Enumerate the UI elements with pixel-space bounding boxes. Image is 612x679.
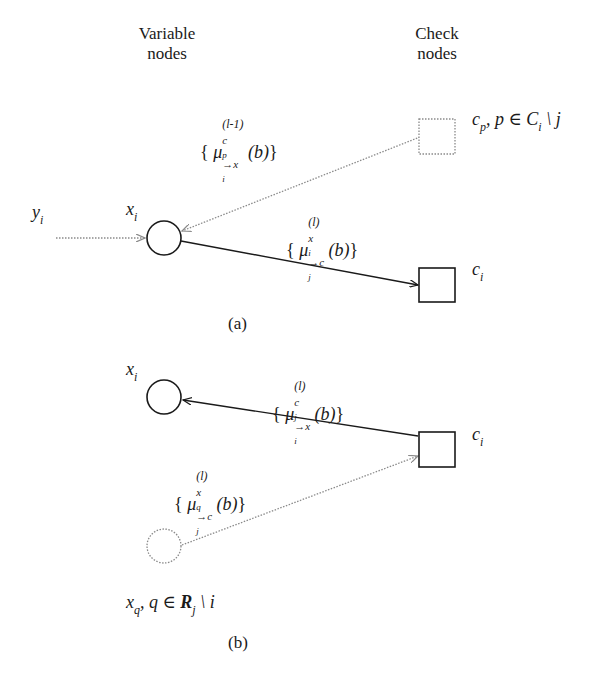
msg-argument: (b) — [329, 240, 350, 260]
brace-open: { — [286, 240, 295, 260]
msg-sub-to-index: j — [308, 271, 324, 283]
message-in-a: { μ(l-1)cp→xi (b)} — [200, 124, 278, 184]
y-symbol: y — [32, 202, 40, 222]
check-header-line1: Check — [402, 24, 472, 44]
xq-subscript: q — [134, 603, 140, 617]
message-out-b: { μ(l)cj→xi (b)} — [272, 386, 344, 446]
x-subscript: i — [134, 210, 137, 224]
mu-symbol: μ — [299, 240, 308, 260]
variable-header-line2: nodes — [122, 44, 212, 64]
cp-set: , p ∈ C — [486, 109, 538, 129]
variable-header-line1: Variable — [122, 24, 212, 44]
input-label-yi: yi — [32, 203, 43, 223]
c-subscript: i — [480, 270, 483, 284]
brace-open: { — [272, 404, 281, 424]
msg-sub-from-index: p — [222, 149, 243, 161]
msg-argument: (b) — [248, 142, 269, 162]
xq-exclusion: \ i — [196, 592, 215, 612]
c-symbol: c — [472, 424, 480, 444]
caption-b: (b) — [228, 634, 248, 652]
check-label-ci: ci — [472, 260, 483, 280]
msg-sub-from-index: i — [308, 247, 324, 259]
cp-exclusion: \ j — [542, 109, 561, 129]
msg-sub-from-index: q — [196, 501, 212, 513]
y-subscript: i — [40, 213, 43, 227]
message-in-b: { μ(l)xq→cj (b)} — [174, 476, 246, 536]
var-label-xi: xi — [126, 200, 137, 220]
msg-sub-from: c — [294, 396, 310, 408]
cp-set-subscript: i — [538, 120, 541, 134]
msg-sub-from: x — [308, 232, 324, 244]
xq-set-subscript: j — [192, 603, 195, 617]
mu-symbol: μ — [285, 404, 294, 424]
msg-argument: (b) — [315, 404, 336, 424]
msg-sub-to-index: i — [222, 173, 243, 185]
x-symbol: x — [126, 199, 134, 219]
mu-symbol: μ — [187, 494, 196, 514]
brace-close: } — [350, 240, 359, 260]
msg-sub-to-index: j — [196, 525, 212, 537]
variable-node-xi-b — [147, 380, 181, 414]
other-check-label: cp, p ∈ Ci \ j — [472, 110, 561, 130]
xq-symbol: x — [126, 592, 134, 612]
other-var-label: xq, q ∈ Rj \ i — [126, 593, 215, 613]
message-out-a: { μ(l)xi→cj (b)} — [286, 222, 358, 282]
brace-open: { — [174, 494, 183, 514]
variable-node-xi — [147, 221, 181, 255]
msg-argument: (b) — [217, 494, 238, 514]
mu-symbol: μ — [213, 142, 222, 162]
brace-open: { — [200, 142, 209, 162]
msg-sub-from: x — [196, 486, 212, 498]
c-subscript: i — [480, 435, 483, 449]
caption-a: (a) — [228, 315, 247, 333]
xq-set: , q ∈ — [140, 592, 180, 612]
variable-nodes-header: Variable nodes — [122, 24, 212, 64]
msg-superscript: (l) — [196, 470, 212, 482]
msg-sub-to-index: i — [294, 435, 310, 447]
other-check-node-cp — [419, 119, 455, 154]
msg-sub-from-index: j — [294, 411, 310, 423]
msg-sub-from: c — [222, 134, 243, 146]
cp-subscript: p — [480, 120, 486, 134]
msg-superscript: (l) — [294, 380, 310, 392]
check-node-ci-b — [419, 432, 455, 467]
msg-superscript: (l) — [308, 216, 324, 228]
var-label-xi-b: xi — [126, 360, 137, 380]
brace-close: } — [336, 404, 345, 424]
check-label-ci-b: ci — [472, 425, 483, 445]
brace-close: } — [238, 494, 247, 514]
x-symbol: x — [126, 359, 134, 379]
check-node-ci — [419, 268, 455, 302]
x-subscript: i — [134, 370, 137, 384]
check-nodes-header: Check nodes — [402, 24, 472, 64]
cp-symbol: c — [472, 109, 480, 129]
diagram-canvas — [0, 0, 612, 679]
check-header-line2: nodes — [402, 44, 472, 64]
c-symbol: c — [472, 259, 480, 279]
msg-superscript: (l-1) — [222, 118, 243, 130]
brace-close: } — [269, 142, 278, 162]
xq-set-name: R — [180, 592, 192, 612]
